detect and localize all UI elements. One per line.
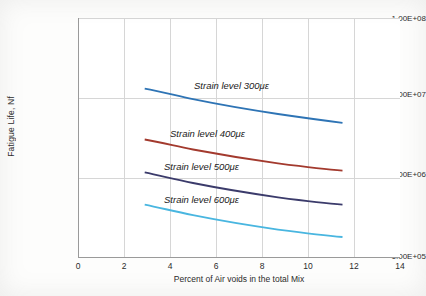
x-tick-label-1: 2 <box>112 261 136 271</box>
chart-page: Fatigue Life, Nf 1.00E+08 1.00E+07 1.00E… <box>0 0 426 296</box>
x-tick-label-4: 8 <box>250 261 274 271</box>
series-annotation-400: Strain level 400με <box>170 128 245 139</box>
x-tick-label-2: 4 <box>158 261 182 271</box>
x-tick-label-5: 10 <box>296 261 320 271</box>
series-annotation-500: Strain level 500με <box>164 161 239 172</box>
plot-area: Strain level 300με Strain level 400με St… <box>78 18 400 258</box>
x-tick-label-3: 6 <box>204 261 228 271</box>
y-axis-label: Fatigue Life, Nf <box>6 96 20 157</box>
x-tick-label-6: 12 <box>342 261 366 271</box>
x-tick-label-7: 14 <box>388 261 412 271</box>
series-annotation-600: Strain level 600με <box>164 194 239 205</box>
series-annotation-300: Strain level 300με <box>194 80 269 91</box>
x-tick-label-0: 0 <box>66 261 90 271</box>
x-axis-label: Percent of Air voids in the total Mix <box>78 274 400 284</box>
